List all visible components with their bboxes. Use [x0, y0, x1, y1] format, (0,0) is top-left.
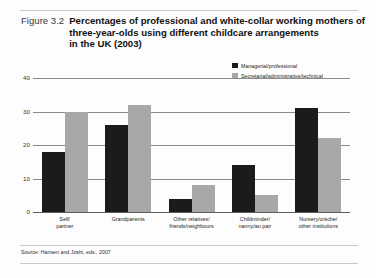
x-axis-label-line: other institutions [287, 223, 350, 230]
bar[interactable] [295, 108, 318, 212]
bar-pair [223, 78, 286, 212]
x-axis-label: Grandparents [96, 216, 159, 230]
bar[interactable] [192, 185, 215, 212]
x-axis-labels: Self/partnerGrandparentsOther relatives/… [33, 216, 350, 230]
bar[interactable] [169, 199, 192, 212]
x-axis-label-line: Childminder/ [223, 216, 286, 223]
bar-group [96, 78, 159, 212]
figure-panel: Figure 3.2 Percentages of professional a… [0, 0, 376, 278]
plot-area: 010203040 [33, 78, 350, 212]
bar[interactable] [42, 152, 65, 212]
bar-pair [160, 78, 223, 212]
source-divider [20, 245, 358, 246]
x-axis-label-line: partner [33, 223, 96, 230]
bar-group [33, 78, 96, 212]
figure-number: Figure 3.2 [21, 15, 69, 27]
figure-title-line-3: in the UK (2003) [69, 38, 365, 50]
bar-pair [287, 78, 350, 212]
bar-group [287, 78, 350, 212]
figure-title: Percentages of professional and white-co… [69, 15, 365, 50]
y-axis-tick-40: 40 [23, 75, 30, 81]
bar-group [160, 78, 223, 212]
gridline-0: 0 [33, 212, 350, 213]
x-axis-label-line: Other relatives/ [160, 216, 223, 223]
x-axis-label: Childminder/nanny/au pair [223, 216, 286, 230]
bar-pair [33, 78, 96, 212]
legend-label-managerial: Managerial/professional [241, 63, 297, 69]
x-axis-label: Nursery/crèche/other institutions [287, 216, 350, 230]
bar-pair [96, 78, 159, 212]
top-divider [20, 10, 358, 11]
bar[interactable] [255, 195, 278, 212]
x-axis-label-line: Nursery/crèche/ [287, 216, 350, 223]
figure-title-line-2: three-year-olds using different childcar… [69, 27, 365, 39]
y-axis-tick-30: 30 [23, 109, 30, 115]
y-axis-tick-10: 10 [23, 176, 30, 182]
x-axis-label-line: nanny/au pair [223, 223, 286, 230]
y-axis-tick-20: 20 [23, 142, 30, 148]
x-axis-label-line: Grandparents [96, 216, 159, 223]
bar-groups [33, 78, 350, 212]
bar[interactable] [318, 138, 341, 212]
y-axis-tick-0: 0 [27, 209, 30, 215]
bottom-divider [20, 263, 358, 264]
bar[interactable] [128, 105, 151, 212]
x-axis-label: Other relatives/friends/neighbours [160, 216, 223, 230]
bar[interactable] [232, 165, 255, 212]
figure-caption: Figure 3.2 Percentages of professional a… [21, 15, 355, 50]
bar-group [223, 78, 286, 212]
x-axis-label-line: Self/ [33, 216, 96, 223]
source-note: Source: Hansen and Joshi, eds., 2007 [21, 249, 111, 256]
figure-title-line-1: Percentages of professional and white-co… [69, 15, 365, 27]
legend-item-managerial: Managerial/professional [232, 61, 323, 70]
x-axis-label: Self/partner [33, 216, 96, 230]
bar[interactable] [105, 125, 128, 212]
bar[interactable] [65, 112, 88, 213]
legend-swatch-icon-managerial [232, 63, 238, 69]
x-axis-label-line: friends/neighbours [160, 223, 223, 230]
